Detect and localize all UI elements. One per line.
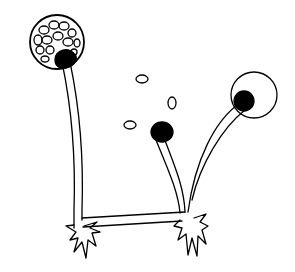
right-columella [234,91,254,111]
spore [168,97,176,109]
middle-columella [151,122,173,142]
fungus-illustration [0,0,295,272]
stolon [82,212,185,227]
right-sporangiophores [156,103,245,213]
left-sporangiophore [62,62,82,228]
spore [136,75,148,83]
left-columella [55,50,76,69]
right-rhizoid [174,214,208,256]
spore [124,121,136,129]
